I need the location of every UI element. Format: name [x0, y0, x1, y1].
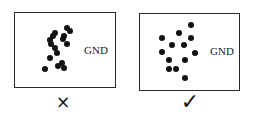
gnd-label-incorrect: GND — [84, 44, 108, 56]
via-dot — [159, 49, 165, 55]
via-dot — [176, 30, 182, 36]
via-dot — [42, 66, 48, 72]
via-dot — [181, 42, 187, 48]
via-dot — [159, 35, 165, 41]
via-dot — [173, 66, 179, 72]
via-dot — [188, 35, 194, 41]
via-dot — [182, 75, 188, 81]
via-dot — [188, 22, 194, 28]
cross-icon: × — [56, 92, 70, 112]
check-icon: ✓ — [181, 89, 199, 114]
gnd-label-correct: GND — [210, 45, 234, 57]
via-dot — [192, 50, 198, 56]
via-dot — [64, 41, 70, 47]
via-dot — [54, 50, 60, 56]
via-dot — [166, 66, 172, 72]
via-dot — [166, 57, 172, 63]
via-dot — [67, 28, 73, 34]
via-dot — [169, 42, 175, 48]
via-dot — [61, 65, 67, 71]
via-dot — [47, 55, 53, 61]
via-dot — [182, 57, 188, 63]
